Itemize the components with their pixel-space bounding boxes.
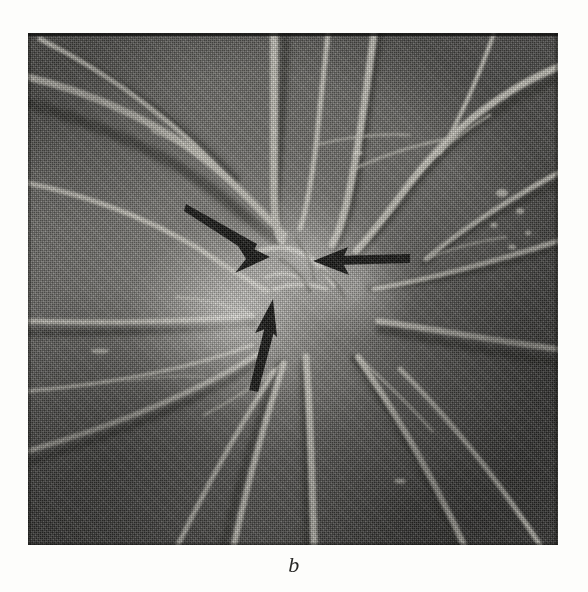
figure-page: b [0,0,588,592]
fundus-photograph [28,33,558,545]
figure-caption-label: b [0,552,588,578]
plate-edge-ink [28,33,558,545]
